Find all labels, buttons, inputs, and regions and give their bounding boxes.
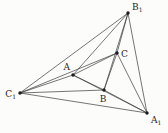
vertex-dot-C1 [18, 91, 21, 94]
vertex-dot-B1 [126, 11, 129, 14]
vertex-label-B1: B1 [132, 2, 142, 13]
segment-C1-A [20, 75, 73, 93]
geometry-figure: B1C1A1ABC [0, 0, 168, 133]
segments-layer [20, 13, 147, 113]
vertex-label-B: B [100, 94, 107, 104]
vertex-label-A: A [63, 62, 71, 72]
segment-B1-C1 [20, 13, 128, 93]
vertex-label-C: C [121, 49, 128, 59]
vertex-dot-A [71, 73, 74, 76]
vertex-label-A1: A1 [150, 115, 161, 126]
nested-triangles-svg: B1C1A1ABC [0, 0, 168, 133]
segment-C1-B [20, 90, 104, 93]
segment-C1-C [20, 53, 117, 93]
vertex-dot-A1 [145, 111, 148, 114]
segment-A1-B1 [128, 13, 147, 113]
vertex-dot-B [102, 88, 105, 91]
segment-A1-C [117, 53, 147, 113]
vertex-label-C1: C1 [5, 89, 16, 100]
vertex-dot-C [115, 51, 118, 54]
